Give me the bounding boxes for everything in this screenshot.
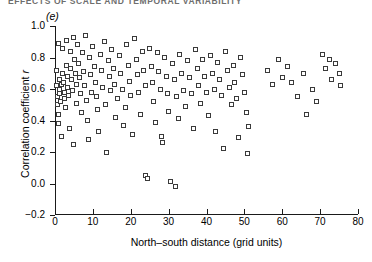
scatter-point	[135, 72, 140, 77]
x-tick-mark	[358, 209, 359, 214]
scatter-point	[112, 82, 117, 87]
scatter-point	[64, 38, 69, 43]
scatter-point	[185, 58, 190, 63]
scatter-point	[234, 96, 239, 101]
scatter-point	[56, 121, 61, 126]
scatter-point	[304, 112, 309, 117]
scatter-point	[156, 69, 161, 74]
scatter-point	[295, 94, 300, 99]
scatter-point	[225, 68, 230, 73]
scatter-point	[106, 58, 111, 63]
scatter-point	[223, 49, 228, 54]
scatter-point	[54, 68, 59, 73]
scatter-point	[78, 91, 83, 96]
scatter-point	[99, 68, 104, 73]
x-tick-label: 70	[305, 217, 335, 227]
scatter-point	[71, 35, 76, 40]
scatter-point	[153, 120, 158, 125]
scatter-point	[98, 52, 103, 57]
scatter-point	[333, 61, 338, 66]
scatter-point	[96, 129, 101, 134]
scatter-point	[244, 110, 249, 115]
x-tick-label: 20	[116, 217, 146, 227]
scatter-point	[231, 63, 236, 68]
scatter-point	[314, 99, 319, 104]
scatter-point	[145, 176, 150, 181]
scatter-point	[127, 79, 132, 84]
scatter-point	[221, 146, 226, 151]
scatter-point	[155, 50, 160, 55]
scatter-point	[212, 87, 217, 92]
scatter-point	[118, 71, 123, 76]
scatter-point	[77, 75, 82, 80]
scatter-point	[238, 55, 243, 60]
scatter-point	[68, 49, 73, 54]
scatter-point	[103, 102, 108, 107]
scatter-point	[80, 50, 85, 55]
scatter-point	[85, 118, 90, 123]
x-tick-label: 50	[229, 217, 259, 227]
scatter-point	[128, 93, 133, 98]
scatter-point	[189, 91, 194, 96]
scatter-point	[83, 33, 88, 38]
scatter-point	[86, 137, 91, 142]
scatter-point	[166, 109, 171, 114]
scatter-point	[245, 151, 250, 156]
scatter-point	[143, 83, 148, 88]
x-tick-label: 80	[343, 217, 372, 227]
scatter-point	[219, 93, 224, 98]
scatter-point	[240, 72, 245, 77]
scatter-point	[109, 47, 114, 52]
scatter-point	[130, 132, 135, 137]
scatter-point	[124, 42, 129, 47]
scatter-point	[79, 110, 84, 115]
scatter-point	[276, 57, 281, 62]
scatter-point	[74, 82, 79, 87]
scatter-point	[63, 105, 68, 110]
scatter-point	[107, 74, 112, 79]
scatter-point	[193, 47, 198, 52]
scatter-point	[134, 57, 139, 62]
scatter-point	[280, 75, 285, 80]
scatter-point	[196, 83, 201, 88]
scatter-point	[147, 46, 152, 51]
scatter-point	[177, 52, 182, 57]
scatter-point	[210, 71, 215, 76]
y-axis-title-text: Correlation coefficient	[19, 74, 31, 178]
scatter-point	[82, 83, 87, 88]
scatter-point	[202, 74, 207, 79]
scatter-point	[198, 101, 203, 106]
scatter-point	[74, 101, 79, 106]
scatter-point	[126, 63, 131, 68]
scatter-point	[117, 53, 122, 58]
scatter-point	[151, 99, 156, 104]
scatter-point	[141, 68, 146, 73]
scatter-point	[187, 75, 192, 80]
scatter-point	[160, 140, 165, 145]
running-head-text: EFFECTS OF SCALE AND TEMPORAL VARIABILIT…	[8, 0, 258, 5]
scatter-point	[173, 184, 178, 189]
scatter-point	[338, 83, 343, 88]
scatter-point	[149, 64, 154, 69]
scatter-point	[121, 123, 126, 128]
x-axis-title: North–south distance (grid units)	[55, 236, 358, 248]
figure-panel-e: EFFECTS OF SCALE AND TEMPORAL VARIABILIT…	[0, 0, 372, 262]
scatter-point	[183, 104, 188, 109]
scatter-point	[337, 71, 342, 76]
scatter-point	[115, 96, 120, 101]
scatter-point	[179, 71, 184, 76]
scatter-point	[70, 88, 75, 93]
scatter-point	[120, 87, 125, 92]
scatter-point	[164, 74, 169, 79]
scatter-point	[246, 124, 251, 129]
y-axis-title-symbol: r	[19, 70, 31, 74]
scatter-point	[102, 39, 107, 44]
scatter-point	[206, 113, 211, 118]
scatter-point	[229, 102, 234, 107]
scatter-point	[123, 105, 128, 110]
x-tick-label: 40	[192, 217, 222, 227]
scatter-point	[227, 85, 232, 90]
scatter-point	[89, 90, 94, 95]
scatter-point	[108, 88, 113, 93]
x-tick-label: 0	[40, 217, 70, 227]
